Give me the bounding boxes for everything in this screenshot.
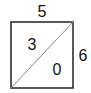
square-diagram: 5 6 3 0: [0, 0, 91, 93]
lower-right-value: 0: [53, 61, 62, 78]
upper-left-value: 3: [28, 36, 37, 53]
right-label: 6: [79, 47, 88, 64]
diagonal-line: [11, 22, 73, 88]
top-label: 5: [38, 3, 47, 20]
